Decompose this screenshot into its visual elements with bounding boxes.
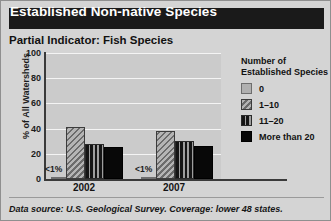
y-axis-line [44,52,46,180]
legend-swatch-vertical-stripe-icon [241,115,252,126]
xtick-2007: 2007 [139,182,209,193]
chart-legend: Number of Established Species 0 1–10 11–… [241,56,327,142]
footer-divider [9,197,324,198]
legend-item-1: 1–10 [241,99,327,110]
bar-2002-more-than-20 [104,147,123,179]
legend-swatch-diagonal-hatch-icon [241,99,252,110]
annotation-2007-less-than-1pct: <1% [135,164,152,174]
page-title: Established Non-native Species [10,4,217,19]
legend-item-0: 0 [241,83,327,94]
xtick-2002: 2002 [49,182,119,193]
source-note: Data source: U.S. Geological Survey. Cov… [9,204,283,214]
y-axis-label: % of All Watersheds [21,36,31,156]
legend-label-0: 0 [259,84,264,94]
legend-item-2: 11–20 [241,115,327,126]
bar-2007-1-10 [156,131,175,179]
legend-item-3: More than 20 [241,131,327,142]
ytick-0: 0 [15,175,41,184]
legend-swatch-solid-gray-icon [241,83,252,94]
bar-2007-11-20 [175,141,194,179]
bar-2002-11-20 [85,144,104,179]
bar-2007-more-than-20 [194,146,213,179]
legend-swatch-solid-black-icon [241,131,252,142]
gridline-60 [45,103,221,104]
gridline-80 [45,78,221,79]
gridline-100 [45,53,221,54]
bar-2002-1-10 [66,127,85,179]
plot-area [45,53,221,179]
legend-title-line1: Number of [241,56,327,67]
chart-figure: Established Non-native Species Partial I… [0,0,331,221]
legend-title-line2: Established Species [241,67,327,78]
annotation-2002-less-than-1pct: <1% [45,164,62,174]
legend-label-3: More than 20 [259,132,315,142]
x-axis-line [44,179,287,181]
y-axis-ticks: 100 80 60 40 20 0 % of All Watersheds [11,1,41,221]
legend-label-1: 1–10 [259,100,279,110]
legend-label-2: 11–20 [259,116,284,126]
